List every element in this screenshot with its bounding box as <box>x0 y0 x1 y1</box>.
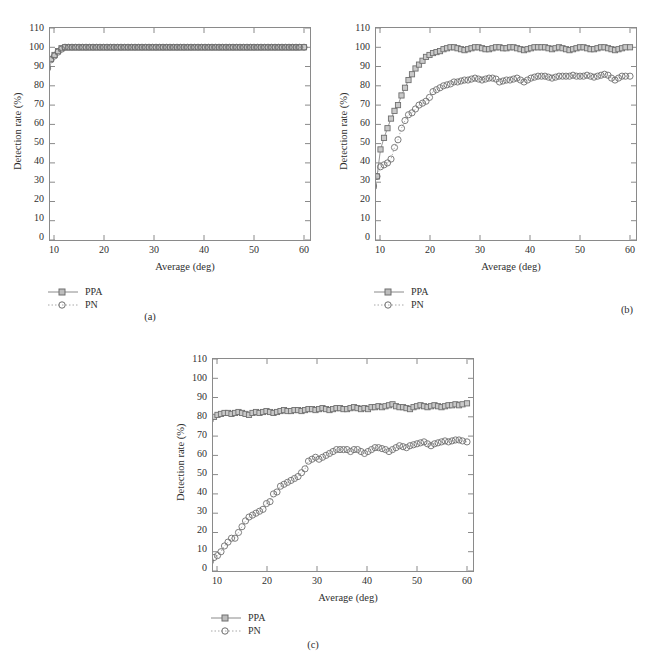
ytick-80: 80 <box>183 410 207 421</box>
panel-c-series-ppa <box>213 401 470 424</box>
ytick-110: 110 <box>20 22 44 33</box>
panel-b-legend: PPA PN <box>374 285 428 311</box>
ytick-50: 50 <box>20 136 44 147</box>
xtick-10: 10 <box>42 244 66 255</box>
ytick-80: 80 <box>20 79 44 90</box>
panel-c-series-pn <box>213 437 470 567</box>
ytick-20: 20 <box>183 524 207 535</box>
xtick-20: 20 <box>92 244 116 255</box>
xtick-40: 40 <box>518 244 542 255</box>
ytick-90: 90 <box>183 391 207 402</box>
panel-a-legend: PPA PN <box>48 285 102 311</box>
xtick-50: 50 <box>568 244 592 255</box>
ytick-70: 70 <box>183 429 207 440</box>
xtick-60: 60 <box>618 244 642 255</box>
ytick-80: 80 <box>346 79 370 90</box>
legend-key-circle-dotted <box>211 625 241 637</box>
panel-c: Detection rate (%) 110 100 90 80 70 60 5… <box>163 331 489 661</box>
ytick-10: 10 <box>346 212 370 223</box>
legend-row-pn: PN <box>48 298 102 311</box>
panel-b-xlabel: Average (deg) <box>456 261 566 272</box>
ytick-40: 40 <box>20 155 44 166</box>
ytick-10: 10 <box>183 543 207 554</box>
ytick-40: 40 <box>183 486 207 497</box>
legend-row-ppa: PPA <box>211 611 265 624</box>
ytick-30: 30 <box>20 174 44 185</box>
ytick-110: 110 <box>346 22 370 33</box>
xtick-20: 20 <box>255 575 279 586</box>
panel-c-xlabel: Average (deg) <box>293 592 403 603</box>
panel-b-caption: (b) <box>607 304 647 315</box>
xtick-60: 60 <box>455 575 479 586</box>
panel-b-plot-area <box>375 27 637 241</box>
ytick-60: 60 <box>20 117 44 128</box>
panel-a-plot-area <box>49 27 311 241</box>
panel-c-ticks-inner <box>213 359 473 571</box>
legend-key-square-solid <box>211 612 241 624</box>
panel-b-svg <box>376 28 636 240</box>
legend-key-square-solid <box>374 286 404 298</box>
xtick-40: 40 <box>355 575 379 586</box>
ytick-0: 0 <box>346 231 370 242</box>
xtick-60: 60 <box>292 244 316 255</box>
legend-row-ppa: PPA <box>374 285 428 298</box>
panel-c-caption: (c) <box>293 639 333 650</box>
legend-label-pn: PN <box>411 299 424 310</box>
ytick-70: 70 <box>20 98 44 109</box>
xtick-30: 30 <box>305 575 329 586</box>
xtick-30: 30 <box>142 244 166 255</box>
legend-key-circle-dotted <box>374 299 404 311</box>
xtick-20: 20 <box>418 244 442 255</box>
ytick-50: 50 <box>183 467 207 478</box>
ytick-30: 30 <box>183 505 207 516</box>
xtick-30: 30 <box>468 244 492 255</box>
ytick-60: 60 <box>183 448 207 459</box>
ytick-40: 40 <box>346 155 370 166</box>
legend-key-circle-dotted <box>48 299 78 311</box>
panel-c-legend: PPA PN <box>211 611 265 637</box>
panel-b-series-pn <box>376 71 633 199</box>
ytick-10: 10 <box>20 212 44 223</box>
panel-a: Detection rate (%) 110 100 90 80 70 60 5… <box>0 0 326 330</box>
xtick-50: 50 <box>242 244 266 255</box>
ytick-20: 20 <box>346 193 370 204</box>
ytick-50: 50 <box>346 136 370 147</box>
ytick-20: 20 <box>20 193 44 204</box>
panel-b-ticks-inner <box>376 28 636 240</box>
xtick-40: 40 <box>192 244 216 255</box>
legend-row-ppa: PPA <box>48 285 102 298</box>
ytick-0: 0 <box>183 562 207 573</box>
ytick-90: 90 <box>346 60 370 71</box>
ytick-30: 30 <box>346 174 370 185</box>
ytick-100: 100 <box>346 41 370 52</box>
panel-c-svg <box>213 359 473 571</box>
panel-a-xlabel: Average (deg) <box>130 261 240 272</box>
legend-label-ppa: PPA <box>85 286 102 297</box>
xtick-10: 10 <box>368 244 392 255</box>
panel-a-svg <box>50 28 310 240</box>
panel-a-series-pn <box>50 44 307 93</box>
xtick-10: 10 <box>205 575 229 586</box>
panel-b: Detection rate (%) 110 100 90 80 70 60 5… <box>326 0 652 330</box>
ytick-100: 100 <box>183 372 207 383</box>
ytick-0: 0 <box>20 231 44 242</box>
ytick-100: 100 <box>20 41 44 52</box>
xtick-50: 50 <box>405 575 429 586</box>
legend-row-pn: PN <box>374 298 428 311</box>
panel-c-plot-area <box>212 358 474 572</box>
ytick-70: 70 <box>346 98 370 109</box>
legend-key-square-solid <box>48 286 78 298</box>
legend-label-ppa: PPA <box>411 286 428 297</box>
legend-label-pn: PN <box>248 625 261 636</box>
ytick-110: 110 <box>183 353 207 364</box>
panel-a-caption: (a) <box>130 311 170 322</box>
panel-a-ticks-inner <box>50 28 310 240</box>
ytick-90: 90 <box>20 60 44 71</box>
legend-label-pn: PN <box>85 299 98 310</box>
ytick-60: 60 <box>346 117 370 128</box>
panel-b-series-ppa <box>376 45 633 199</box>
legend-label-ppa: PPA <box>248 612 265 623</box>
legend-row-pn: PN <box>211 624 265 637</box>
